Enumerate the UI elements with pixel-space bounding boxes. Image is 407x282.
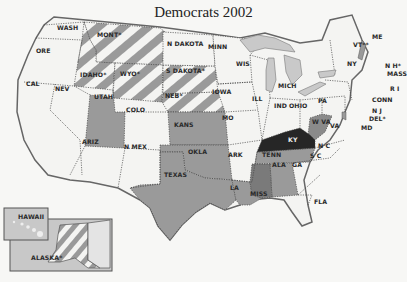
label-wva: W VA — [312, 118, 331, 125]
label-ark: ARK — [228, 151, 243, 158]
label-mont: MONT* — [97, 31, 122, 38]
label-nev: NEV — [55, 85, 70, 92]
label-sdakota: S DAKOTA* — [166, 67, 206, 74]
state-wyo — [113, 63, 163, 102]
label-texas: TEXAS — [164, 171, 187, 178]
label-me: ME — [372, 33, 383, 40]
label-ariz: ARIZ — [82, 138, 99, 145]
label-utah: UTAH — [94, 93, 113, 100]
label-idaho: IDAHO* — [80, 71, 107, 78]
label-mich: MICH — [278, 82, 297, 89]
label-va: VA — [330, 122, 339, 129]
label-conn: CONN — [372, 96, 393, 103]
label-fla: FLA — [314, 198, 327, 205]
label-alaska: ALASKA* — [31, 254, 63, 261]
label-ny: NY — [347, 60, 357, 67]
label-colo: COLO — [126, 106, 145, 113]
label-wyo: WYO* — [120, 70, 141, 77]
label-kans: KANS — [174, 121, 194, 128]
label-nc: N C — [318, 142, 331, 149]
label-mo: MO — [222, 114, 234, 121]
label-ore: ORE — [36, 47, 51, 54]
label-minn: MINN — [208, 43, 227, 50]
label-wash: WASH — [57, 24, 78, 31]
label-neb: NEB* — [165, 92, 183, 99]
label-ind: IND — [274, 102, 287, 109]
label-okla: OKLA — [188, 148, 207, 155]
label-ill: ILL — [252, 95, 263, 102]
label-del: DEL* — [369, 115, 387, 122]
label-md: MD — [361, 124, 373, 131]
label-iowa: IOWA — [212, 88, 231, 95]
label-ga: GA — [292, 161, 302, 168]
label-ky: KY — [288, 136, 298, 143]
label-ala: ALA — [272, 161, 286, 168]
label-pa: PA — [318, 97, 327, 104]
label-ndakota: N DAKOTA — [167, 40, 203, 47]
label-hawaii: HAWAII — [18, 213, 44, 220]
label-cal: CAL — [26, 80, 40, 87]
label-ohio: OHIO — [289, 102, 307, 109]
label-nj: N J — [372, 107, 382, 115]
label-nh: N H* — [385, 62, 402, 69]
state-kans — [168, 112, 228, 145]
label-sc: S C — [310, 152, 322, 159]
label-mass: MASS — [387, 70, 407, 77]
us-map: WASH ORE CAL NEV IDAHO* MONT* WYO* UTAH … — [0, 0, 407, 282]
label-miss: MISS — [250, 190, 268, 197]
label-nmex: N MEX — [124, 143, 147, 150]
label-la: LA — [230, 184, 239, 191]
label-wis: WIS — [236, 60, 250, 67]
label-ri: R I — [390, 85, 400, 92]
label-vt: VT** — [353, 41, 370, 48]
label-tenn: TENN — [262, 151, 281, 158]
